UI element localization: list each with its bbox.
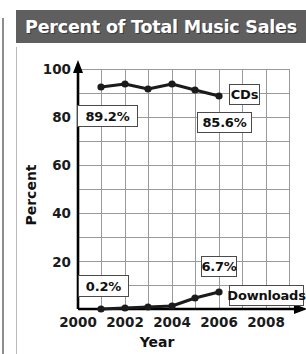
callout-cds-series-label: CDs: [229, 84, 260, 105]
x-tick-2008: 2008: [240, 314, 292, 330]
x-tick-2000: 2000: [52, 314, 104, 330]
page-edge-rule: [2, 18, 4, 354]
y-axis-arrow: [73, 60, 83, 73]
chart-figure: Percent of Total Music Sales: [0, 0, 306, 354]
y-tick-20: 20: [31, 254, 71, 270]
callout-cds-end: 85.6%: [197, 112, 252, 133]
x-tick-2006: 2006: [193, 314, 245, 330]
y-tick-80: 80: [31, 109, 71, 125]
x-axis-title: Year: [117, 334, 197, 350]
callout-downloads-series-label: Downloads: [229, 285, 304, 306]
chart-plot-frame: 100 80 60 40 20 2000 2002 2004 2006 2008…: [16, 47, 306, 354]
x-tick-2002: 2002: [99, 314, 151, 330]
callout-cds-start: 89.2%: [77, 105, 138, 127]
y-axis-title: Percent: [23, 160, 39, 230]
chart-title-bar: Percent of Total Music Sales: [16, 10, 306, 43]
callout-downloads-end: 6.7%: [201, 256, 237, 277]
page-title: Percent of Total Music Sales: [25, 17, 297, 37]
callout-downloads-start: 0.2%: [78, 275, 129, 297]
plot-canvas: [17, 47, 306, 354]
x-tick-2004: 2004: [146, 314, 198, 330]
y-tick-100: 100: [31, 61, 71, 77]
series-cds: [97, 80, 222, 99]
